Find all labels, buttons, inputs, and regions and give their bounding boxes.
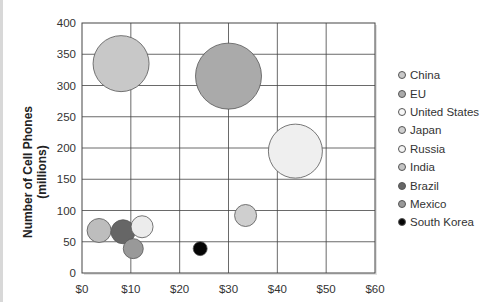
legend-label: Brazil <box>410 180 439 192</box>
legend-item: South Korea <box>398 213 479 231</box>
legend-swatch-icon <box>398 163 406 171</box>
legend-item: China <box>398 66 479 84</box>
legend-item: Russia <box>398 140 479 158</box>
legend-label: Japan <box>410 124 441 136</box>
y-tick-label: 50 <box>63 236 76 248</box>
bubble-china <box>93 36 149 92</box>
x-tick-label: $30 <box>219 283 238 295</box>
legend-swatch-icon <box>398 90 406 98</box>
y-tick-label: 250 <box>57 111 76 123</box>
y-tick-label: 0 <box>70 267 76 279</box>
legend-item: EU <box>398 84 479 102</box>
legend-swatch-icon <box>398 182 406 190</box>
legend-item: India <box>398 158 479 176</box>
x-tick-label: $50 <box>317 283 336 295</box>
legend-item: Mexico <box>398 195 479 213</box>
legend-swatch-icon <box>398 71 406 79</box>
legend-label: EU <box>410 88 426 100</box>
x-tick-label: $60 <box>365 283 384 295</box>
y-tick-label: 400 <box>57 17 76 29</box>
x-tick-label: $10 <box>121 283 140 295</box>
legend-swatch-icon <box>398 218 406 226</box>
legend-swatch-icon <box>398 200 406 208</box>
legend-item: Brazil <box>398 176 479 194</box>
x-tick-label: $0 <box>76 283 89 295</box>
bubble-eu <box>196 43 262 109</box>
legend-label: Russia <box>410 143 445 155</box>
legend-swatch-icon <box>398 145 406 153</box>
bubble-japan <box>235 205 257 227</box>
y-tick-label: 350 <box>57 48 76 60</box>
legend-swatch-icon <box>398 126 406 134</box>
x-tick-label: $40 <box>268 283 287 295</box>
y-tick-label: 200 <box>57 142 76 154</box>
legend-label: India <box>410 161 435 173</box>
bubble-india <box>87 219 111 243</box>
y-tick-label: 100 <box>57 205 76 217</box>
y-tick-label: 300 <box>57 80 76 92</box>
x-tick-label: $20 <box>170 283 189 295</box>
bubble-russia <box>131 216 153 238</box>
legend-label: Mexico <box>410 198 446 210</box>
bubble-united-states <box>268 124 322 178</box>
legend-item: United States <box>398 103 479 121</box>
legend-label: China <box>410 69 440 81</box>
legend-item: Japan <box>398 121 479 139</box>
legend-swatch-icon <box>398 108 406 116</box>
bubble-mexico <box>123 239 143 259</box>
y-tick-label: 150 <box>57 173 76 185</box>
legend-label: South Korea <box>410 216 474 228</box>
bubble-south-korea <box>193 242 207 256</box>
chart-legend: ChinaEUUnited StatesJapanRussiaIndiaBraz… <box>398 66 479 232</box>
legend-label: United States <box>410 106 479 118</box>
